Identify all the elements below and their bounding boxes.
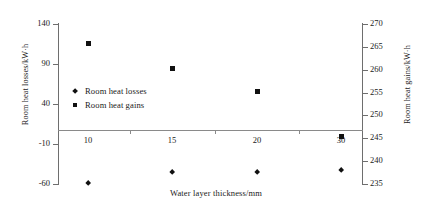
x-axis-title: Water layer thickness/mm xyxy=(0,188,432,198)
square-icon xyxy=(70,103,80,108)
right-tick-mark xyxy=(363,70,368,71)
left-tick-mark xyxy=(53,104,58,105)
right-tick-label: 270 xyxy=(370,18,410,28)
right-tick-mark xyxy=(363,138,368,139)
data-point-diamond xyxy=(338,167,344,173)
left-tick-mark xyxy=(53,184,58,185)
x-tick-mark xyxy=(130,130,131,134)
x-tick-label: 20 xyxy=(237,135,277,145)
x-tick-label: 10 xyxy=(68,135,108,145)
left-tick-label: 90 xyxy=(16,58,50,68)
chart-container: Room heat losses/kW·h Room heat gains/kW… xyxy=(0,0,432,208)
left-tick-label: 40 xyxy=(16,98,50,108)
legend-item: Room heat gains xyxy=(70,98,147,112)
legend-label: Room heat losses xyxy=(85,86,147,96)
diamond-icon xyxy=(70,89,80,93)
x-tick-mark xyxy=(299,130,300,134)
right-tick-mark xyxy=(363,184,368,185)
right-tick-mark xyxy=(363,47,368,48)
data-point-square xyxy=(170,66,175,71)
legend-item: Room heat losses xyxy=(70,84,147,98)
data-point-diamond xyxy=(254,169,260,175)
data-point-square xyxy=(255,89,260,94)
right-tick-label: 265 xyxy=(370,41,410,51)
data-point-diamond xyxy=(85,180,91,186)
legend-label: Room heat gains xyxy=(85,100,144,110)
left-axis-spine xyxy=(58,23,59,185)
right-tick-label: 240 xyxy=(370,155,410,165)
right-tick-mark xyxy=(363,161,368,162)
right-tick-label: 245 xyxy=(370,132,410,142)
x-tick-label: 15 xyxy=(152,135,192,145)
left-tick-label: 140 xyxy=(16,18,50,28)
chart-legend: Room heat lossesRoom heat gains xyxy=(70,84,147,112)
data-point-diamond xyxy=(169,169,175,175)
right-tick-mark xyxy=(363,24,368,25)
right-tick-label: 250 xyxy=(370,109,410,119)
left-tick-label: -60 xyxy=(16,178,50,188)
data-point-square xyxy=(339,134,344,139)
right-tick-label: 260 xyxy=(370,64,410,74)
left-tick-mark xyxy=(53,144,58,145)
right-tick-mark xyxy=(363,93,368,94)
left-tick-label: -10 xyxy=(16,138,50,148)
data-point-square xyxy=(86,41,91,46)
x-axis-line xyxy=(58,130,363,131)
left-y-axis-title: Room heat losses/kW·h xyxy=(21,27,30,143)
left-tick-mark xyxy=(53,24,58,25)
right-tick-mark xyxy=(363,115,368,116)
x-tick-mark xyxy=(215,130,216,134)
right-tick-label: 235 xyxy=(370,178,410,188)
left-tick-mark xyxy=(53,64,58,65)
right-tick-label: 255 xyxy=(370,87,410,97)
